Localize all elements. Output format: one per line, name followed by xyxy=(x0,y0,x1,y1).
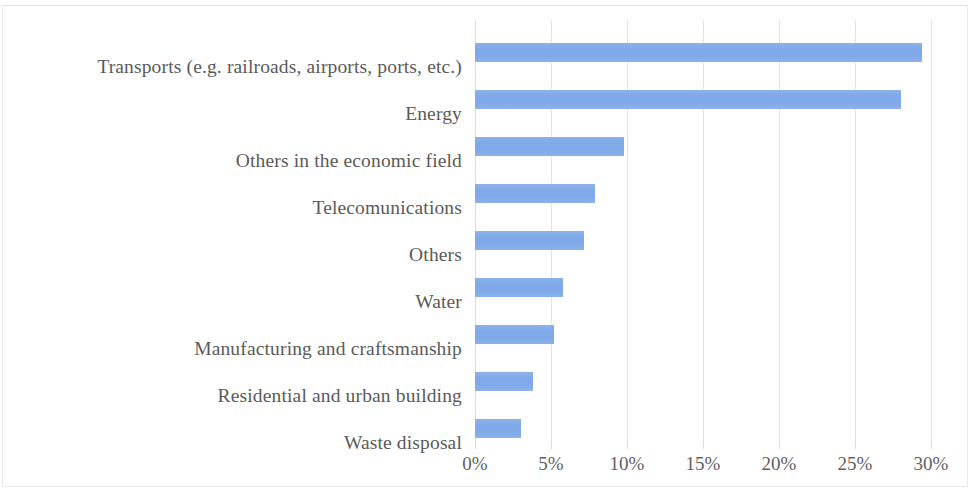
tick-mark-20 xyxy=(779,442,780,449)
tick-label-15: 15% xyxy=(676,453,730,475)
bar-telecomunications[interactable] xyxy=(475,184,595,203)
tick-mark-10 xyxy=(627,442,628,449)
value-axis: 0% 5% 10% 15% 20% 25% 30% xyxy=(475,442,931,482)
tick-mark-0 xyxy=(475,442,476,449)
gridline-15 xyxy=(703,20,704,442)
tick-mark-25 xyxy=(855,442,856,449)
category-label-others-economic: Others in the economic field xyxy=(0,150,462,172)
category-label-transports: Transports (e.g. railroads, airports, po… xyxy=(0,56,462,78)
category-label-telecomunications: Telecomunications xyxy=(0,197,462,219)
gridline-10 xyxy=(627,20,628,442)
tick-label-20: 20% xyxy=(752,453,806,475)
tick-label-5: 5% xyxy=(524,453,578,475)
bar-waste-disposal[interactable] xyxy=(475,419,521,438)
tick-label-30: 30% xyxy=(904,453,958,475)
gridline-20 xyxy=(779,20,780,442)
bar-water[interactable] xyxy=(475,278,563,297)
tick-mark-5 xyxy=(551,442,552,449)
gridline-30 xyxy=(931,20,932,442)
category-label-water: Water xyxy=(0,291,462,313)
category-label-energy: Energy xyxy=(0,103,462,125)
tick-label-0: 0% xyxy=(448,453,502,475)
bar-transports[interactable] xyxy=(475,43,922,62)
category-label-residential: Residential and urban building xyxy=(0,385,462,407)
bar-others-economic[interactable] xyxy=(475,137,624,156)
bar-manufacturing[interactable] xyxy=(475,325,554,344)
tick-label-25: 25% xyxy=(828,453,882,475)
category-label-others: Others xyxy=(0,244,462,266)
category-axis: Transports (e.g. railroads, airports, po… xyxy=(0,20,462,442)
bar-residential[interactable] xyxy=(475,372,533,391)
category-label-waste-disposal: Waste disposal xyxy=(0,432,462,454)
bar-others[interactable] xyxy=(475,231,584,250)
gridline-25 xyxy=(855,20,856,442)
tick-mark-15 xyxy=(703,442,704,449)
bar-chart-figure: Transports (e.g. railroads, airports, po… xyxy=(0,0,970,497)
bar-energy[interactable] xyxy=(475,90,901,109)
plot-area xyxy=(475,20,931,442)
tick-mark-30 xyxy=(931,442,932,449)
category-label-manufacturing: Manufacturing and craftsmanship xyxy=(0,338,462,360)
tick-label-10: 10% xyxy=(600,453,654,475)
